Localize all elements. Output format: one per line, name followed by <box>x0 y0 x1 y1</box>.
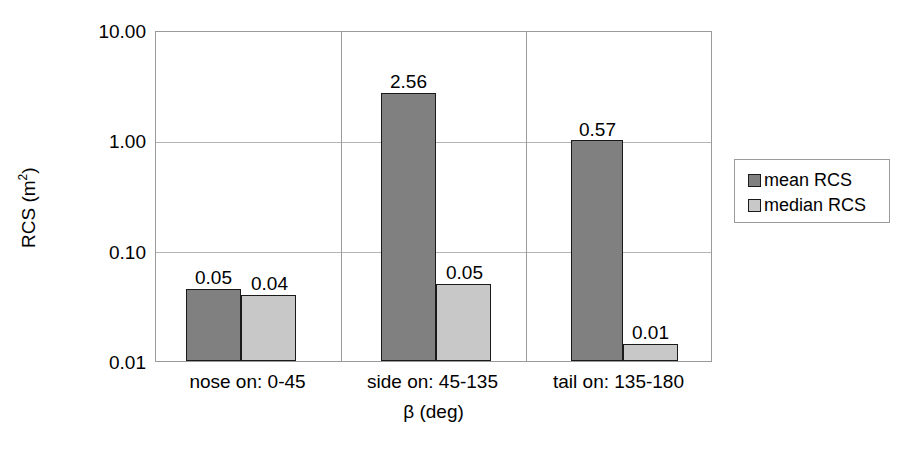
legend-item-median-rcs[interactable]: median RCS <box>748 196 866 214</box>
bar-mean-tail-on[interactable] <box>571 140 623 361</box>
x-tick-label-side-on: side on: 45-135 <box>340 372 525 392</box>
bar-mean-nose-on[interactable] <box>186 289 241 361</box>
category-separator-2 <box>526 32 527 361</box>
y-tick-label-10: 10.00 <box>6 22 146 41</box>
plot-area: 0.05 0.04 2.56 0.05 0.57 0.01 <box>155 31 712 362</box>
bar-mean-side-on[interactable] <box>381 93 436 361</box>
bar-label-median-tail-on: 0.01 <box>620 323 681 342</box>
legend-swatch-icon-median <box>748 199 761 212</box>
x-axis-title: β (deg) <box>155 401 712 423</box>
bar-label-mean-nose-on: 0.05 <box>183 268 244 287</box>
legend-label-median: median RCS <box>764 196 866 214</box>
legend-item-mean-rcs[interactable]: mean RCS <box>748 171 852 189</box>
bar-median-side-on[interactable] <box>436 284 491 361</box>
bar-label-median-nose-on: 0.04 <box>239 274 300 293</box>
legend-swatch-icon-mean <box>748 174 761 187</box>
bar-label-median-side-on: 0.05 <box>434 263 495 282</box>
bar-median-tail-on[interactable] <box>623 344 678 361</box>
chart-page: RCS (m2) 10.00 1.00 0.10 0.01 0.05 0.04 … <box>0 0 923 449</box>
category-separator-1 <box>341 32 342 361</box>
bar-median-nose-on[interactable] <box>241 295 296 361</box>
y-axis-tick-labels: 10.00 1.00 0.10 0.01 <box>0 0 146 449</box>
bar-label-mean-side-on: 2.56 <box>378 72 439 91</box>
y-tick-label-0.10: 0.10 <box>6 243 146 262</box>
x-tick-label-tail-on: tail on: 135-180 <box>525 372 712 392</box>
x-tick-label-nose-on: nose on: 0-45 <box>155 372 340 392</box>
legend-label-mean: mean RCS <box>764 171 852 189</box>
legend: mean RCS median RCS <box>734 159 890 223</box>
y-tick-label-0.01: 0.01 <box>6 353 146 372</box>
y-tick-label-1: 1.00 <box>6 132 146 151</box>
bar-label-mean-tail-on: 0.57 <box>567 120 628 139</box>
